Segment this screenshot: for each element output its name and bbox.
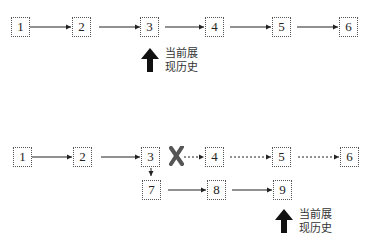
node-2: 2 xyxy=(73,147,92,167)
node-4-discarded: 4 xyxy=(205,147,224,167)
node-9: 9 xyxy=(273,180,292,200)
current-history-label: 当前展 现历史 xyxy=(165,47,198,75)
node-3: 3 xyxy=(141,147,160,167)
node-7: 7 xyxy=(142,180,161,200)
node-5-discarded: 5 xyxy=(272,147,291,167)
node-6-discarded: 6 xyxy=(340,147,359,167)
current-arrow-up-icon xyxy=(141,48,159,72)
node-5: 5 xyxy=(272,17,291,37)
node-4: 4 xyxy=(205,17,224,37)
node-1: 1 xyxy=(13,147,32,167)
node-2: 2 xyxy=(72,17,91,37)
cross-icon xyxy=(168,146,184,166)
current-history-label: 当前展 现历史 xyxy=(299,208,332,236)
node-8: 8 xyxy=(207,180,226,200)
node-3: 3 xyxy=(140,17,159,37)
node-1: 1 xyxy=(11,17,30,37)
current-arrow-up-icon xyxy=(275,209,293,233)
node-6: 6 xyxy=(339,17,358,37)
